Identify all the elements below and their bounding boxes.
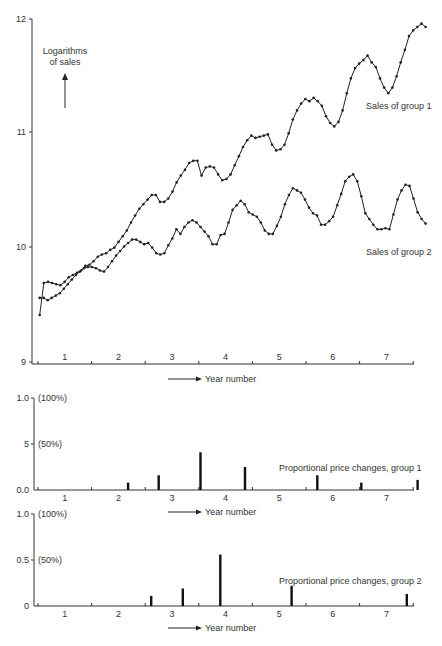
price-change-bar — [316, 475, 318, 490]
price-change-bar — [150, 596, 152, 606]
g2-y-tick-1: 1.0 — [16, 509, 29, 519]
top-x-axis-label: Year number — [205, 374, 256, 384]
top-chart: 12 11 10 9 1234567 Logarithms of sales S… — [16, 14, 432, 384]
price-change-bar — [416, 480, 418, 490]
g1-title: Proportional price changes, group 1 — [279, 463, 422, 473]
series-group-1-line — [40, 24, 426, 315]
price-change-bar — [244, 467, 246, 490]
y-axis-label-line1: Logarithms — [43, 46, 88, 56]
right-arrow-icon — [168, 510, 202, 515]
y-tick-11: 11 — [17, 127, 26, 137]
series-group-2-line — [40, 174, 426, 300]
x-tick-label: 3 — [169, 352, 174, 362]
y-tick-10: 10 — [16, 242, 26, 252]
g2-pct-100: (100%) — [38, 509, 67, 519]
g2-x-ticks: 1234567 — [38, 603, 413, 619]
x-tick-label: 3 — [169, 609, 174, 619]
g2-title: Proportional price changes, group 2 — [279, 576, 422, 586]
x-tick-label: 7 — [384, 352, 389, 362]
price-change-bar — [158, 475, 160, 490]
up-arrow-icon — [62, 73, 68, 108]
y-axis-label-line2: of sales — [49, 57, 81, 67]
right-arrow-icon — [168, 377, 202, 382]
series-group-1-label: Sales of group 1 — [366, 101, 432, 111]
price-change-bar — [199, 452, 201, 490]
g1-x-axis-label: Year number — [205, 507, 256, 517]
g1-y-tick-5: 5 — [24, 439, 29, 449]
x-tick-label: 3 — [169, 493, 174, 503]
x-tick-label: 6 — [330, 352, 335, 362]
price-change-bar — [127, 483, 129, 490]
series-group-2-markers — [38, 173, 427, 301]
g2-x-axis-label: Year number — [205, 623, 256, 633]
x-tick-label: 5 — [277, 352, 282, 362]
x-tick-label: 4 — [223, 609, 228, 619]
g1-x-ticks: 1234567 — [38, 487, 413, 503]
g2-y-tick-0: 0 — [24, 601, 29, 611]
x-tick-label: 4 — [223, 352, 228, 362]
group1-chart: 1.0 5 0.0 (100%) (50%) 1234567 Proportio… — [16, 393, 421, 517]
price-change-bar — [406, 594, 408, 606]
top-y-ticks: 12 11 10 9 — [16, 14, 32, 367]
x-tick-label: 1 — [62, 493, 67, 503]
x-tick-label: 2 — [116, 352, 121, 362]
x-tick-label: 5 — [277, 493, 282, 503]
x-tick-label: 6 — [330, 493, 335, 503]
g1-y-tick-1: 1.0 — [16, 393, 29, 403]
right-arrow-icon — [168, 626, 202, 631]
price-change-bar — [290, 586, 292, 606]
y-tick-12: 12 — [16, 14, 26, 24]
g1-pct-100: (100%) — [38, 393, 67, 403]
x-tick-label: 1 — [62, 609, 67, 619]
x-tick-label: 6 — [330, 609, 335, 619]
x-tick-label: 7 — [384, 493, 389, 503]
g1-y-tick-0: 0.0 — [16, 485, 29, 495]
x-tick-label: 7 — [384, 609, 389, 619]
g2-pct-50: (50%) — [38, 555, 62, 565]
x-tick-label: 1 — [62, 352, 67, 362]
g1-pct-50: (50%) — [38, 439, 62, 449]
series-group-2-label: Sales of group 2 — [366, 247, 432, 257]
y-tick-9: 9 — [21, 357, 26, 367]
x-tick-label: 2 — [116, 493, 121, 503]
x-tick-label: 5 — [277, 609, 282, 619]
x-tick-label: 2 — [116, 609, 121, 619]
g2-y-tick-05: 0.5 — [16, 555, 29, 565]
price-change-bar — [360, 483, 362, 490]
group2-chart: 1.0 0.5 0 (100%) (50%) 1234567 Proportio… — [16, 509, 421, 633]
price-change-bar — [219, 555, 221, 607]
price-change-bar — [182, 589, 184, 607]
top-x-ticks: 1234567 — [38, 352, 413, 364]
x-tick-label: 4 — [223, 493, 228, 503]
chart-figure: 12 11 10 9 1234567 Logarithms of sales S… — [0, 0, 442, 646]
